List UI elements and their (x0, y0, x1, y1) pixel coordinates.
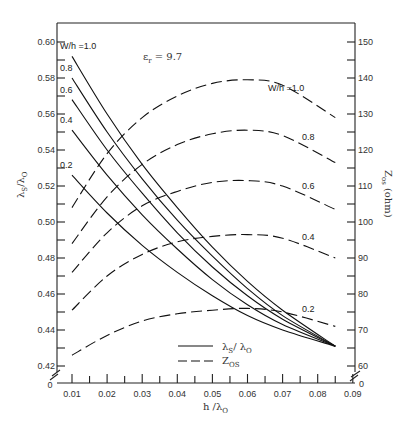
y-tick-label: 0.54 (37, 145, 55, 155)
y-axis-label-right: Zos (ohm) (380, 170, 394, 218)
x-ticks: 00.010.020.030.040.050.060.070.080.09 (47, 374, 361, 399)
y-right-tick-label: 100 (358, 217, 373, 227)
y-right-tick-label: 120 (358, 145, 373, 155)
curve-labels: W/h =1.00.80.60.40.2W/h =1.00.80.60.40.2 (60, 41, 315, 314)
y-tick-label: 0.50 (37, 217, 55, 227)
legend: λS/ λO ZOS (178, 341, 252, 369)
dashed-curve-label: W/h =1.0 (268, 83, 304, 93)
solid-curve-label: 0.2 (60, 160, 73, 170)
y-right-tick-label: 90 (358, 253, 368, 263)
dashed-curve-label: 0.8 (302, 132, 315, 142)
y-right-tick-label: 130 (358, 109, 373, 119)
solid-curve-label: 0.6 (60, 85, 73, 95)
solid-curve-label: 0.8 (60, 63, 73, 73)
y-right-tick-label: 110 (358, 181, 372, 191)
wavelength-curve (72, 56, 335, 346)
legend-solid-label: λS/ λO (222, 341, 252, 355)
y-tick-label: 0.60 (37, 37, 55, 47)
y-tick-label: 0.52 (37, 181, 55, 191)
wavelength-curve (72, 175, 335, 346)
y-right-tick-label: 80 (358, 289, 368, 299)
left-axis-break (50, 370, 60, 380)
epsilon-annotation: εr = 9.7 (143, 51, 182, 65)
x-tick-label: 0.07 (274, 389, 292, 399)
x-tick-label: 0.08 (309, 389, 327, 399)
x-tick-label: 0.03 (133, 389, 151, 399)
y-tick-label: 0.48 (37, 253, 55, 263)
wavelength-curve (72, 78, 335, 346)
legend-dashed-label: ZOS (222, 355, 240, 369)
x-tick-label: 0 (47, 380, 52, 390)
y-right-tick-label: 70 (358, 325, 368, 335)
solid-curve-label: W/h =1.0 (60, 41, 96, 51)
x-axis-label: h /λO (203, 401, 228, 415)
impedance-curve (72, 80, 335, 208)
y-tick-label: 0.46 (37, 289, 55, 299)
y-right-tick-label: 60 (358, 361, 368, 371)
x-tick-label: 0.06 (239, 389, 257, 399)
y-tick-label: 0.42 (37, 361, 55, 371)
y-right-tick-label: 140 (358, 73, 373, 83)
y-tick-label: 0.56 (37, 109, 55, 119)
dashed-curve-label: 0.4 (302, 232, 315, 242)
y-tick-label: 0.44 (37, 325, 55, 335)
solid-curve-label: 0.4 (60, 115, 73, 125)
curves (72, 56, 335, 355)
x-tick-label: 0.02 (98, 389, 116, 399)
dashed-curve-label: 0.6 (302, 181, 315, 191)
impedance-curve (72, 308, 335, 355)
y-axis-label-left: λS/λO (15, 171, 29, 198)
chart: 00.010.020.030.040.050.060.070.080.09 0.… (0, 0, 405, 426)
dashed-curve-label: 0.2 (302, 304, 315, 314)
y-ticks-right: 060708090100110120130140150 (347, 37, 373, 389)
impedance-curve (72, 130, 335, 243)
y-right-tick-label: 150 (358, 37, 373, 47)
x-tick-label: 0.05 (204, 389, 222, 399)
y-tick-label: 0.58 (37, 73, 55, 83)
x-tick-label: 0.09 (344, 389, 362, 399)
x-tick-label: 0.04 (169, 389, 187, 399)
x-tick-label: 0.01 (63, 389, 81, 399)
y-right-tick-label: 0 (359, 379, 364, 389)
wavelength-curve (72, 100, 335, 347)
